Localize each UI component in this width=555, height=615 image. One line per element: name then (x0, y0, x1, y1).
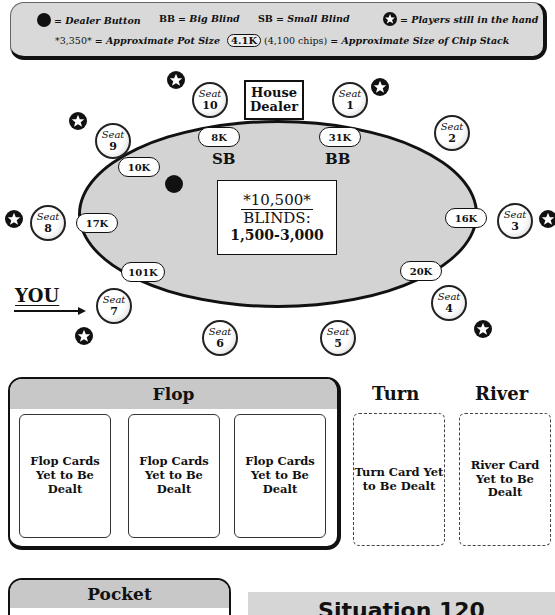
seat-3[interactable]: Seat3 (497, 203, 533, 239)
seat-10[interactable]: Seat10 (192, 82, 228, 118)
seat-8[interactable]: Seat8 (30, 205, 66, 241)
chip-stack-seat-9: 10K (118, 157, 160, 177)
seat-4[interactable]: Seat4 (431, 285, 467, 321)
situation-title: Situation 120 (318, 598, 485, 615)
legend-big-blind: BB = Big Blind (159, 13, 240, 24)
chip-stack-seat-10: 8K (198, 127, 240, 147)
seat-9[interactable]: Seat9 (95, 123, 131, 159)
seat-5[interactable]: Seat5 (320, 320, 356, 356)
chip-stack-seat-8: 17K (76, 213, 118, 233)
turn-card: Turn Card Yet to Be Dealt (353, 413, 445, 546)
flop-card-1: Flop Cards Yet to Be Dealt (19, 414, 111, 538)
flop-card-3: Flop Cards Yet to Be Dealt (234, 414, 326, 538)
player-in-hand-star-icon (383, 12, 397, 26)
river-card: River Card Yet to Be Dealt (459, 413, 551, 546)
you-arrow-icon (14, 306, 86, 316)
flop-card-2: Flop Cards Yet to Be Dealt (128, 414, 220, 538)
dealer-button-icon (165, 175, 183, 193)
in-hand-star-icon-seat-9 (69, 112, 87, 130)
big-blind-label: BB (325, 150, 350, 168)
flop-title: Flop (10, 379, 337, 409)
seat-1[interactable]: Seat1 (332, 82, 368, 118)
river-title: River (475, 383, 528, 404)
situation-title-banner: Situation 120 (248, 592, 555, 615)
chip-stack-seat-1: 31K (319, 127, 361, 147)
chip-stack-example: 4.1K (227, 34, 261, 47)
in-hand-star-icon-seat-1 (371, 78, 389, 96)
seat-7[interactable]: Seat7 (96, 288, 132, 324)
legend-dealer-button: = Dealer Button (37, 13, 141, 27)
legend-players-in-hand: = Players still in the hand (383, 12, 538, 26)
small-blind-label: SB (212, 150, 236, 168)
legend-chip-stack: 4.1K (4,100 chips) = Approximate Size of… (227, 34, 509, 47)
in-hand-star-icon-seat-3 (539, 210, 555, 228)
legend-panel: = Dealer Button BB = Big Blind SB = Smal… (10, 2, 547, 60)
seat-6[interactable]: Seat6 (202, 320, 238, 356)
seat-2[interactable]: Seat2 (434, 115, 470, 151)
dealer-button-icon (37, 13, 51, 27)
blinds-value: 1,500-3,000 (230, 227, 324, 243)
pot-and-blinds-box: *10,500* BLINDS: 1,500-3,000 (217, 180, 337, 255)
chip-stack-seat-7: 101K (121, 262, 165, 282)
in-hand-star-icon-seat-8 (5, 210, 23, 228)
you-label: YOU (15, 285, 59, 306)
in-hand-star-icon-seat-4 (474, 320, 492, 338)
house-dealer-box: House Dealer (244, 80, 304, 120)
chip-stack-seat-4: 20K (400, 261, 442, 281)
in-hand-star-icon-seat-10 (167, 71, 185, 89)
chip-stack-seat-3: 16K (445, 208, 487, 228)
legend-pot-size: *3,350* = Approximate Pot Size (55, 35, 220, 46)
pocket-panel: Pocket (8, 578, 231, 615)
pocket-title: Pocket (10, 580, 229, 608)
turn-title: Turn (372, 383, 419, 404)
pot-size: *10,500* (241, 192, 313, 210)
in-hand-star-icon-seat-7 (75, 327, 93, 345)
blinds-label: BLINDS: (243, 210, 310, 227)
legend-small-blind: SB = Small Blind (258, 13, 350, 24)
